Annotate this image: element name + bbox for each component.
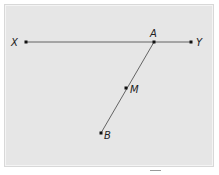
- geometry-diagram: X A Y M B: [0, 0, 219, 175]
- label-b: B: [104, 130, 111, 141]
- label-a: A: [149, 28, 157, 39]
- footer-mark: [150, 170, 161, 171]
- point-x: [25, 41, 28, 44]
- point-y: [190, 41, 193, 44]
- point-b: [100, 132, 103, 135]
- point-a: [153, 41, 156, 44]
- label-x: X: [10, 37, 19, 48]
- label-m: M: [130, 84, 139, 95]
- point-m: [125, 87, 128, 90]
- label-y: Y: [196, 37, 203, 48]
